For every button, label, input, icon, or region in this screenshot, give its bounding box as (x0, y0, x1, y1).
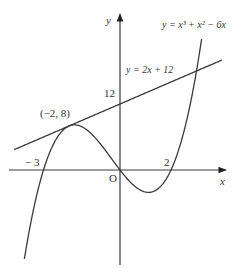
root-2-label: 2 (164, 157, 170, 168)
cubic-curve (24, 39, 201, 259)
root-neg3-label: − 3 (25, 157, 39, 168)
graph-canvas (0, 0, 242, 273)
line-curve (14, 60, 222, 150)
origin-label: O (109, 173, 117, 184)
x-axis-label: x (220, 176, 225, 187)
y-axis-label: y (106, 15, 111, 26)
cubic-equation-label: y = x³ + x² − 6x (162, 20, 226, 30)
tangent-point-label: (−2, 8) (40, 108, 70, 119)
line-equation-label: y = 2x + 12 (126, 65, 173, 75)
y-intercept-label: 12 (104, 88, 115, 99)
